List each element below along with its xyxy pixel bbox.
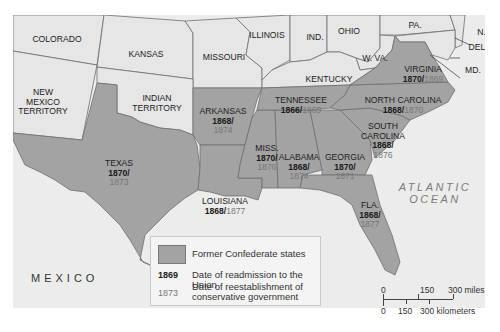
state-label-illinois: ILLINOIS xyxy=(249,31,284,41)
state-label-texas: TEXAS 1870/ 1873 xyxy=(105,159,133,188)
state-label-kansas: KANSAS xyxy=(129,50,164,60)
state-label-colorado: COLORADO xyxy=(32,35,81,45)
state-label-indian-territory: INDIAN TERRITORY xyxy=(132,94,181,113)
state-label-alabama: ALABAMA 1868/ 1874 xyxy=(279,153,320,182)
country-label-mexico: MEXICO xyxy=(31,272,98,284)
legend-readmission-sample: 1869 xyxy=(158,270,178,280)
state-label-new-jersey: N.J. xyxy=(477,28,485,38)
state-label-north-carolina: NORTH CAROLINA 1868/1870 xyxy=(365,96,442,115)
state-label-florida: FLA. 1868/ 1877 xyxy=(359,201,381,230)
confederate-swatch xyxy=(158,245,186,264)
legend-swatch-label: Former Confederate states xyxy=(192,249,306,259)
state-label-tennessee: TENNESSEE 1866/1869 xyxy=(275,96,327,115)
scale-line xyxy=(383,299,453,300)
legend-conservative-sample: 1873 xyxy=(158,288,178,298)
state-label-west-virginia: W. VA. xyxy=(362,54,388,64)
state-label-indiana: IND. xyxy=(306,33,323,43)
state-label-pennsylvania: PA. xyxy=(408,21,421,31)
ocean-label: ATLANTIC OCEAN xyxy=(399,181,471,205)
state-label-arkansas: ARKANSAS 1868/ 1874 xyxy=(200,107,247,136)
state-label-new-mexico: NEW MEXICO TERRITORY xyxy=(18,88,67,117)
state-label-kentucky: KENTUCKY xyxy=(306,75,353,85)
state-label-georgia: GEORGIA 1870/ 1871 xyxy=(325,153,365,182)
state-label-ohio: OHIO xyxy=(338,27,360,37)
state-label-louisiana: LOUISIANA 1868/1877 xyxy=(202,197,248,216)
state-label-south-carolina: SOUTH CAROLINA 1868/ 1876 xyxy=(361,122,405,160)
state-label-missouri: MISSOURI xyxy=(203,53,246,63)
state-label-mississippi: MISS. 1870/ 1876 xyxy=(255,144,278,173)
state-label-virginia: VIRGINIA 1870/1869 xyxy=(403,65,444,84)
legend-conservative-label: Date of reestablishment of conservative … xyxy=(192,282,303,302)
state-label-maryland: MD. xyxy=(465,66,481,76)
map-legend: Former Confederate states 1869 Date of r… xyxy=(150,236,321,306)
state-label-delaware: DEL. xyxy=(468,43,485,53)
scale-bar: 0 150 300 miles 0 150 300 kilometers xyxy=(376,284,496,324)
